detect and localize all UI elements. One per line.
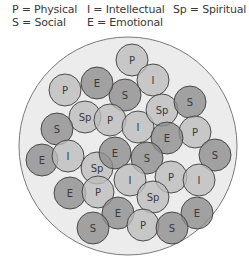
intellectual-label: I xyxy=(129,175,132,186)
intellectual-label: I xyxy=(198,175,201,186)
physical-label: P xyxy=(129,55,135,66)
spiritual-label: Sp xyxy=(79,112,92,123)
social-label: S xyxy=(144,153,150,164)
social-label: S xyxy=(212,150,218,161)
physical-label: P xyxy=(140,220,146,231)
physical-label: P xyxy=(62,85,68,96)
emotional-label: E xyxy=(164,133,170,144)
social-label: S xyxy=(90,223,96,234)
emotional-label: E xyxy=(94,78,100,89)
physical-label: P xyxy=(192,127,198,138)
spiritual-label: Sp xyxy=(147,192,160,203)
social-label: S xyxy=(122,90,128,101)
social-label: S xyxy=(54,124,60,135)
physical-label: P xyxy=(95,187,101,198)
social-label: S xyxy=(169,223,175,234)
emotional-label: E xyxy=(112,148,118,159)
emotional-label: E xyxy=(67,188,73,199)
intellectual-label: I xyxy=(67,151,70,162)
emotional-label: E xyxy=(194,208,200,219)
wellness-circles-diagram: PISEPSpPISpSPESSEISpESIPIEPSpEESPS xyxy=(0,0,249,263)
physical-label: P xyxy=(168,172,174,183)
spiritual-label: Sp xyxy=(156,105,169,116)
social-label: S xyxy=(187,97,193,108)
emotional-label: E xyxy=(39,155,45,166)
intellectual-label: I xyxy=(152,75,155,86)
emotional-label: E xyxy=(115,208,121,219)
physical-label: P xyxy=(107,115,113,126)
spiritual-label: Sp xyxy=(91,163,104,174)
intellectual-label: I xyxy=(137,122,140,133)
